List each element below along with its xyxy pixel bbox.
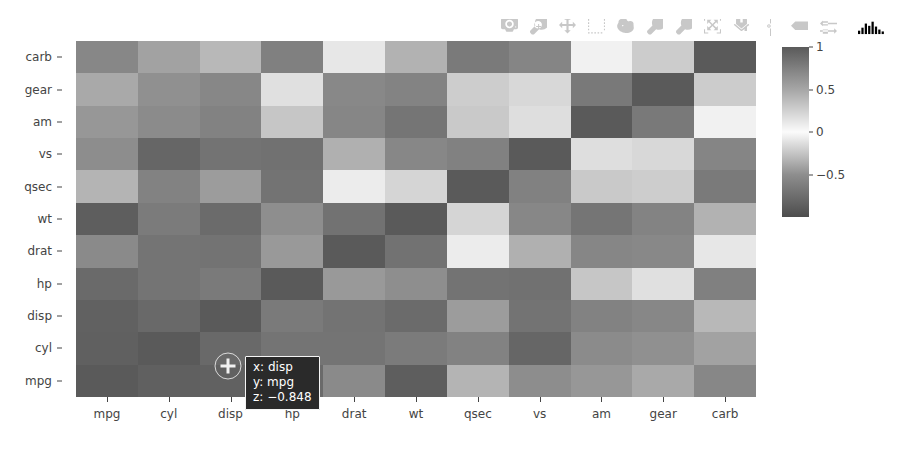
heatmap-cell[interactable]: [694, 300, 756, 332]
heatmap-cell[interactable]: [323, 300, 385, 332]
heatmap-cell[interactable]: [76, 300, 138, 332]
heatmap-cell[interactable]: [200, 138, 262, 170]
heatmap-plot-area[interactable]: [76, 41, 756, 397]
heatmap-cell[interactable]: [694, 365, 756, 397]
heatmap-cell[interactable]: [200, 235, 262, 267]
plotly-logo-icon[interactable]: [853, 15, 893, 39]
heatmap-cell[interactable]: [200, 73, 262, 105]
heatmap-cell[interactable]: [632, 106, 694, 138]
heatmap-cell[interactable]: [138, 106, 200, 138]
heatmap-cell[interactable]: [694, 235, 756, 267]
zoom-in-plus-icon[interactable]: [640, 15, 669, 39]
autoscale-icon[interactable]: [698, 15, 727, 39]
heatmap-cell[interactable]: [571, 41, 633, 73]
heatmap-cell[interactable]: [571, 332, 633, 364]
heatmap-cell[interactable]: [571, 365, 633, 397]
heatmap-cell[interactable]: [447, 73, 509, 105]
heatmap-cell[interactable]: [323, 73, 385, 105]
heatmap-cell[interactable]: [694, 41, 756, 73]
heatmap-cell[interactable]: [632, 170, 694, 202]
heatmap-cell[interactable]: [76, 170, 138, 202]
heatmap-cell[interactable]: [447, 365, 509, 397]
heatmap-cell[interactable]: [76, 365, 138, 397]
heatmap-cell[interactable]: [323, 138, 385, 170]
heatmap-cell[interactable]: [76, 332, 138, 364]
heatmap-cell[interactable]: [323, 170, 385, 202]
heatmap-cell[interactable]: [571, 73, 633, 105]
hover-closest-icon[interactable]: [785, 15, 814, 39]
heatmap-cell[interactable]: [509, 203, 571, 235]
heatmap-cell[interactable]: [632, 41, 694, 73]
heatmap-cell[interactable]: [261, 268, 323, 300]
heatmap-cell[interactable]: [138, 170, 200, 202]
heatmap-cell[interactable]: [76, 41, 138, 73]
heatmap-cell[interactable]: [694, 73, 756, 105]
heatmap-cell[interactable]: [200, 106, 262, 138]
heatmap-cell[interactable]: [509, 41, 571, 73]
heatmap-cell[interactable]: [261, 203, 323, 235]
heatmap-cell[interactable]: [571, 235, 633, 267]
heatmap-cell[interactable]: [447, 332, 509, 364]
heatmap-cell[interactable]: [694, 203, 756, 235]
heatmap-cell[interactable]: [571, 138, 633, 170]
heatmap-cell[interactable]: [447, 170, 509, 202]
heatmap-cell[interactable]: [261, 138, 323, 170]
heatmap-cell[interactable]: [261, 106, 323, 138]
heatmap-cell[interactable]: [447, 268, 509, 300]
heatmap-cell[interactable]: [385, 203, 447, 235]
heatmap-cell[interactable]: [694, 332, 756, 364]
heatmap-cell[interactable]: [509, 170, 571, 202]
heatmap-cell[interactable]: [323, 235, 385, 267]
heatmap-cell[interactable]: [76, 73, 138, 105]
heatmap-cell[interactable]: [447, 138, 509, 170]
heatmap-cell[interactable]: [385, 235, 447, 267]
heatmap-cell[interactable]: [632, 268, 694, 300]
heatmap-cell[interactable]: [509, 268, 571, 300]
heatmap-cell[interactable]: [200, 203, 262, 235]
heatmap-cell[interactable]: [385, 300, 447, 332]
heatmap-cell[interactable]: [200, 41, 262, 73]
heatmap-cell[interactable]: [447, 41, 509, 73]
heatmap-cell[interactable]: [632, 332, 694, 364]
reset-axes-home-icon[interactable]: [727, 15, 756, 39]
heatmap-cell[interactable]: [632, 73, 694, 105]
heatmap-cell[interactable]: [385, 73, 447, 105]
heatmap-cell[interactable]: [138, 73, 200, 105]
heatmap-cell[interactable]: [138, 138, 200, 170]
heatmap-cell[interactable]: [200, 300, 262, 332]
heatmap-cell[interactable]: [323, 41, 385, 73]
heatmap-cell[interactable]: [138, 203, 200, 235]
heatmap-cell[interactable]: [261, 300, 323, 332]
hover-compare-icon[interactable]: [814, 15, 843, 39]
heatmap-cell[interactable]: [385, 365, 447, 397]
heatmap-cell[interactable]: [261, 41, 323, 73]
heatmap-cell[interactable]: [694, 106, 756, 138]
heatmap-cell[interactable]: [447, 235, 509, 267]
lasso-select-icon[interactable]: [611, 15, 640, 39]
heatmap-cell[interactable]: [385, 170, 447, 202]
heatmap-cell[interactable]: [632, 300, 694, 332]
heatmap-cell[interactable]: [200, 170, 262, 202]
heatmap-cell[interactable]: [632, 138, 694, 170]
heatmap-cell[interactable]: [385, 268, 447, 300]
pan-crosshair-icon[interactable]: [553, 15, 582, 39]
heatmap-cell[interactable]: [509, 73, 571, 105]
heatmap-cell[interactable]: [200, 268, 262, 300]
heatmap-cell[interactable]: [261, 73, 323, 105]
heatmap-cell[interactable]: [509, 300, 571, 332]
heatmap-cell[interactable]: [76, 106, 138, 138]
heatmap-cell[interactable]: [632, 365, 694, 397]
heatmap-cell[interactable]: [571, 300, 633, 332]
heatmap-cell[interactable]: [509, 235, 571, 267]
heatmap-cell[interactable]: [138, 41, 200, 73]
download-plot-camera-icon[interactable]: [495, 15, 524, 39]
heatmap-cell[interactable]: [138, 332, 200, 364]
heatmap-cell[interactable]: [323, 106, 385, 138]
heatmap-cell[interactable]: [571, 170, 633, 202]
heatmap-cell[interactable]: [447, 203, 509, 235]
heatmap-cell[interactable]: [509, 138, 571, 170]
heatmap-cell[interactable]: [385, 138, 447, 170]
heatmap-cell[interactable]: [76, 203, 138, 235]
heatmap-cell[interactable]: [632, 235, 694, 267]
heatmap-cell[interactable]: [323, 268, 385, 300]
